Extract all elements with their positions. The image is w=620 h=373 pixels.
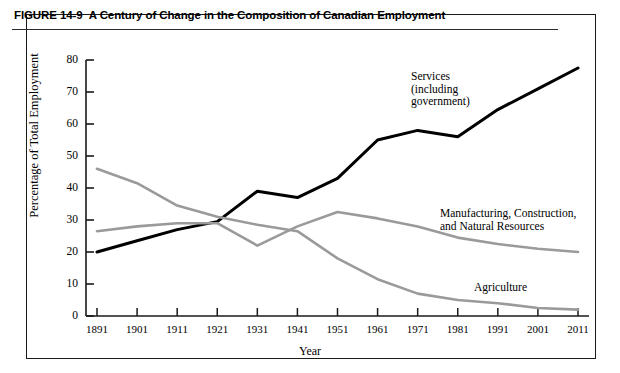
chart-axes (86, 60, 589, 316)
x-tick-label: 1911 (154, 324, 200, 335)
x-tick-label: 2001 (515, 324, 561, 335)
x-tick-label: 2011 (555, 324, 601, 335)
chart-svg (0, 0, 620, 373)
y-tick-label: 60 (52, 118, 78, 130)
y-tick-label: 30 (52, 214, 78, 226)
y-tick-label: 0 (52, 310, 78, 322)
y-tick-label: 70 (52, 86, 78, 98)
x-axis-ticks (97, 308, 578, 316)
chart-plot-area: Percentage of Total Employment Year Serv… (0, 0, 620, 373)
x-tick-label: 1941 (274, 324, 320, 335)
y-axis-ticks (86, 60, 94, 316)
y-tick-label: 20 (52, 246, 78, 258)
y-tick-label: 40 (52, 182, 78, 194)
series-label-agriculture: Agriculture (474, 281, 527, 294)
y-tick-label: 80 (52, 54, 78, 66)
x-axis-label: Year (0, 344, 620, 359)
series-label-manufacturing: Manufacturing, Construction, and Natural… (440, 207, 576, 232)
y-tick-label: 10 (52, 278, 78, 290)
series-label-services: Services (including government) (411, 70, 470, 108)
y-tick-label: 50 (52, 150, 78, 162)
y-axis-label: Percentage of Total Employment (27, 36, 42, 236)
x-tick-label: 1971 (395, 324, 441, 335)
